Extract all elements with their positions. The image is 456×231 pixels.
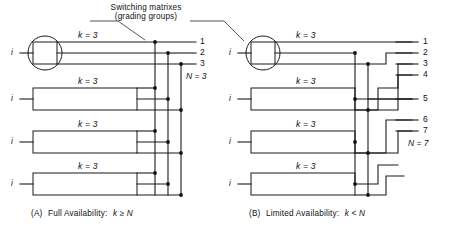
panel-b-output-label-4: 4 <box>423 70 428 79</box>
panel-a-input-label-3: i <box>11 137 13 146</box>
panel-a-input-label-2: i <box>11 94 13 103</box>
panel-b-caption: (B) Limited Availability: k < N <box>249 210 365 218</box>
panel-a-matrix-3 <box>20 131 181 153</box>
panel-a-capacity-label: N = 3 <box>186 72 207 81</box>
panel-b-inner-buses <box>355 53 368 195</box>
panel-b-matrix-3 <box>238 131 368 153</box>
panel-b-staircase-wires <box>355 53 412 195</box>
annotation-leaders <box>90 21 244 41</box>
panel-b-matrix-4 <box>238 173 368 195</box>
panel-a-k-label-4: k = 3 <box>78 162 98 171</box>
panel-b-k-label-2: k = 3 <box>296 77 316 86</box>
switching-matrix-figure: Switching matrixes (grading groups) k = … <box>0 0 456 231</box>
panel-b-output-label-1: 1 <box>423 37 428 46</box>
panel-b-capacity-label: N = 7 <box>408 139 429 148</box>
panel-a-k-label-3: k = 3 <box>78 120 98 129</box>
panel-b-caption-prefix: (B) <box>249 209 261 218</box>
panel-a-k-label-2: k = 3 <box>78 77 98 86</box>
panel-a-input-label-4: i <box>11 179 13 188</box>
panel-b-output-label-3: 3 <box>423 59 428 68</box>
panel-a-output-label-2: 2 <box>200 48 205 57</box>
diagram-linework <box>0 0 456 231</box>
panel-a-k-label-1: k = 3 <box>78 31 98 40</box>
annotation-label: Switching matrixes (grading groups) <box>96 4 196 21</box>
panel-b-input-label-3: i <box>229 137 231 146</box>
panel-a-input-label-1: i <box>11 48 13 57</box>
panel-b-linework <box>238 36 418 197</box>
panel-a-grading-buses <box>155 42 181 195</box>
panel-b-output-label-7: 7 <box>423 126 428 135</box>
annotation-line-2: (grading groups) <box>96 13 196 21</box>
panel-b-input-label-2: i <box>229 94 231 103</box>
panel-b-junction-dots <box>353 51 370 197</box>
annotation-line-1: Switching matrixes <box>96 4 196 12</box>
panel-b-input-label-4: i <box>229 179 231 188</box>
panel-a-matrix-2 <box>20 88 181 110</box>
panel-a-caption-text: Full Availability: <box>48 209 107 218</box>
panel-b-k-label-1: k = 3 <box>296 31 316 40</box>
panel-b-output-label-6: 6 <box>423 115 428 124</box>
panel-b-caption-text: Limited Availability: <box>266 209 339 218</box>
panel-b-caption-math: k < N <box>345 209 365 218</box>
panel-b-output-label-2: 2 <box>423 48 428 57</box>
panel-a-output-label-3: 3 <box>200 59 205 68</box>
panel-a-matrix-1 <box>20 36 181 70</box>
panel-a-caption-prefix: (A) <box>31 209 43 218</box>
panel-b-output-label-5: 5 <box>423 94 428 103</box>
panel-a-linework <box>20 36 196 197</box>
panel-a-output-label-1: 1 <box>200 37 205 46</box>
panel-b-input-label-1: i <box>229 48 231 57</box>
panel-b-k-label-4: k = 3 <box>296 162 316 171</box>
panel-a-caption: (A) Full Availability: k ≥ N <box>31 210 133 218</box>
panel-a-caption-math: k ≥ N <box>113 209 133 218</box>
panel-b-output-leads <box>396 42 418 131</box>
panel-b-k-label-3: k = 3 <box>296 120 316 129</box>
panel-a-matrix-4 <box>20 173 181 195</box>
